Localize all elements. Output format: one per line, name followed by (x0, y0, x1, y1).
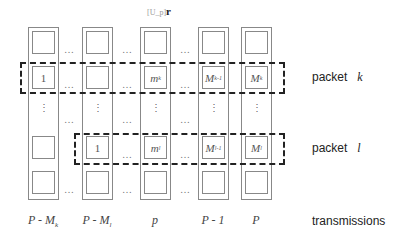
vertical-ellipsis: ⋮ (199, 106, 228, 110)
packet-k-var: k (357, 70, 362, 84)
cell-empty (32, 171, 55, 194)
top-label-subscript: r (166, 5, 171, 17)
cell-empty (245, 171, 268, 194)
bottom-label-c3: p (125, 213, 185, 228)
horizontal-ellipsis: … (122, 44, 132, 55)
horizontal-ellipsis: … (64, 44, 74, 55)
bottom-label-sub: l (110, 221, 112, 229)
cell-empty (32, 136, 55, 159)
packet-l-outline (74, 133, 285, 165)
transmission-column-p-minus-1: Mk-1 ⋮ Ml-1 (198, 27, 229, 200)
transmission-column-p-minus-mk: 1 ⋮ (28, 27, 59, 200)
cell-empty (86, 31, 109, 54)
vertical-ellipsis: ⋮ (141, 106, 170, 110)
top-label-text: [U_p] (147, 8, 166, 17)
vertical-ellipsis: ⋮ (29, 106, 58, 110)
packet-l-label: packetl (312, 141, 361, 156)
bottom-label-c1: P - Mk (13, 213, 73, 229)
transmission-column-p-minus-ml: ⋮ 1 (82, 27, 113, 200)
horizontal-ellipsis: … (180, 114, 190, 125)
bottom-label-text: P - M (28, 213, 55, 227)
cell-empty (32, 31, 55, 54)
transmissions-label: transmissions (312, 214, 385, 228)
cell-empty (202, 171, 225, 194)
horizontal-ellipsis: … (122, 184, 132, 195)
bottom-label-c2: P - Ml (67, 213, 127, 229)
bottom-label-text: P - M (82, 213, 109, 227)
packet-k-label: packetk (312, 70, 363, 85)
vertical-ellipsis: ⋮ (83, 106, 112, 110)
cell-empty (144, 171, 167, 194)
horizontal-ellipsis: … (180, 184, 190, 195)
horizontal-ellipsis: … (180, 44, 190, 55)
cell-empty (86, 171, 109, 194)
vertical-ellipsis: ⋮ (242, 106, 271, 110)
packet-l-text: packet (312, 141, 347, 155)
transmission-column-P: Mk ⋮ Ml (241, 27, 272, 200)
packet-k-outline (20, 62, 285, 94)
bottom-label-c5: P (226, 213, 286, 228)
horizontal-ellipsis: … (122, 114, 132, 125)
cell-empty (202, 31, 225, 54)
packet-l-var: l (357, 141, 360, 155)
cell-empty (245, 31, 268, 54)
transmission-column-p: mk ⋮ ml (140, 27, 171, 200)
horizontal-ellipsis: … (64, 184, 74, 195)
packet-k-text: packet (312, 70, 347, 84)
cell-empty (144, 31, 167, 54)
bottom-label-sub: k (55, 221, 58, 229)
top-label: [U_p]r (147, 5, 171, 17)
horizontal-ellipsis: … (64, 114, 74, 125)
